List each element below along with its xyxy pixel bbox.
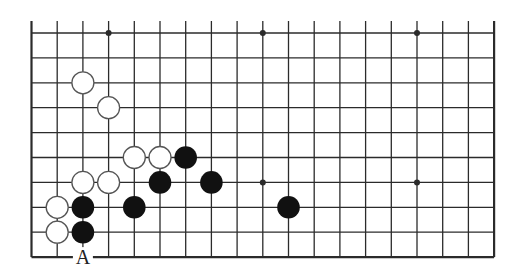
- black-stone-icon: [200, 171, 223, 194]
- white-stone-icon: [149, 147, 171, 169]
- black-stone-icon: [149, 171, 172, 194]
- black-stone-icon: [72, 221, 95, 244]
- white-stone-icon: [72, 171, 94, 193]
- white-stone-icon: [123, 147, 145, 169]
- star-point-icon: [106, 30, 112, 36]
- star-point-icon: [414, 30, 420, 36]
- black-stone-icon: [123, 196, 146, 219]
- point-label: A: [76, 246, 91, 268]
- go-board: A: [0, 0, 520, 279]
- white-stone-icon: [72, 72, 94, 94]
- white-stone-icon: [46, 221, 68, 243]
- black-stone-icon: [277, 196, 300, 219]
- star-point-icon: [260, 30, 266, 36]
- white-stone-icon: [98, 171, 120, 193]
- star-point-icon: [260, 179, 266, 185]
- black-stone-icon: [174, 146, 197, 169]
- black-stone-icon: [72, 196, 95, 219]
- white-stone-icon: [46, 196, 68, 218]
- white-stone-icon: [98, 97, 120, 119]
- star-point-icon: [414, 179, 420, 185]
- labels-layer: A: [76, 246, 91, 268]
- board-grid: [32, 21, 495, 267]
